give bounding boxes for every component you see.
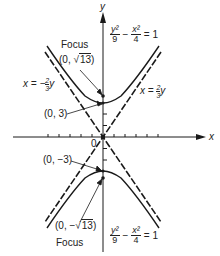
y-axis-arrow-icon bbox=[100, 12, 106, 23]
y-axis-label: y bbox=[100, 2, 105, 12]
x-axis-label: x bbox=[209, 132, 214, 142]
focus-bottom-coord: (0, −√13) bbox=[55, 221, 96, 231]
equation-bottom: y²9 − x²4 = 1 bbox=[110, 226, 158, 246]
focus-top-coord: (0, √13) bbox=[59, 55, 94, 65]
x-axis-arrow-icon bbox=[196, 134, 206, 140]
origin-label: 0 bbox=[91, 139, 97, 149]
vertex-top-label: (0, 3) bbox=[44, 109, 67, 119]
origin-point bbox=[101, 135, 105, 139]
vertex-bottom-label: (0, −3) bbox=[43, 155, 72, 165]
focus-bottom-label: Focus bbox=[56, 238, 83, 248]
focus-top-label: Focus bbox=[61, 40, 88, 50]
asymptote-negative-label: x = −23y bbox=[23, 77, 54, 92]
asymptote-positive-label: x = 23y bbox=[140, 84, 165, 99]
equation-top: y²9 − x²4 = 1 bbox=[110, 25, 158, 45]
